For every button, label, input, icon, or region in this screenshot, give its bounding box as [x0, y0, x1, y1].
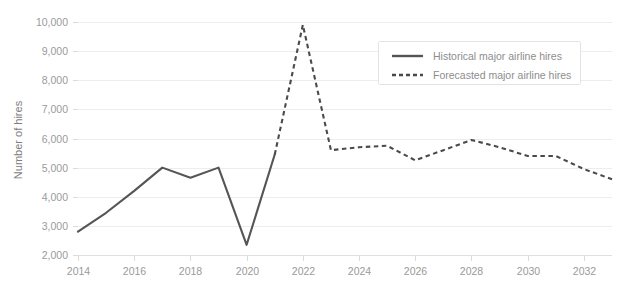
y-tick-label: 8,000 — [42, 74, 68, 86]
x-axis-tick-labels: 2014201620182020202220242026202820302032 — [67, 265, 597, 277]
x-tick-label: 2018 — [179, 265, 203, 277]
line-chart: 2,0003,0004,0005,0006,0007,0008,0009,000… — [0, 0, 624, 291]
y-tick-label: 7,000 — [42, 103, 68, 115]
y-tick-label: 2,000 — [42, 249, 68, 261]
y-tick-label: 6,000 — [42, 133, 68, 145]
x-tick-label: 2028 — [460, 265, 484, 277]
x-tick-label: 2020 — [236, 265, 260, 277]
y-tick-label: 3,000 — [42, 220, 68, 232]
x-tick-label: 2026 — [404, 265, 428, 277]
y-tick-label: 5,000 — [42, 162, 68, 174]
y-axis-title: Number of hires — [12, 100, 24, 179]
x-tick-label: 2014 — [67, 265, 91, 277]
x-tick-label: 2032 — [573, 265, 597, 277]
x-tick-label: 2030 — [517, 265, 541, 277]
chart-canvas: 2,0003,0004,0005,0006,0007,0008,0009,000… — [0, 0, 624, 291]
x-tick-label: 2024 — [348, 265, 372, 277]
chart-legend: Historical major airline hiresForecasted… — [379, 42, 581, 85]
x-axis-tick-marks — [79, 256, 585, 261]
y-tick-label: 9,000 — [42, 45, 68, 57]
y-tick-label: 10,000 — [36, 16, 68, 28]
x-tick-label: 2016 — [123, 265, 147, 277]
y-tick-label: 4,000 — [42, 191, 68, 203]
x-tick-label: 2022 — [292, 265, 316, 277]
legend-label-1: Historical major airline hires — [433, 50, 562, 62]
y-axis-tick-labels: 2,0003,0004,0005,0006,0007,0008,0009,000… — [36, 16, 68, 261]
legend-label-2: Forecasted major airline hires — [433, 69, 571, 81]
